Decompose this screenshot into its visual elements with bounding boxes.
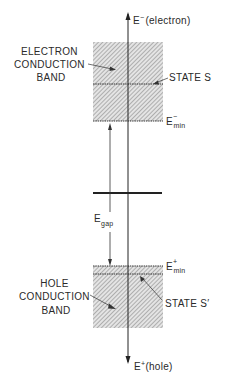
axis-top-label: E−(electron) xyxy=(133,14,191,26)
hole-band-label: HOLE CONDUCTION BAND xyxy=(19,278,93,316)
e-gap-label: Egap xyxy=(94,213,114,228)
gap-arrow-down-icon xyxy=(108,259,112,266)
state-s-label: STATE S xyxy=(169,72,211,83)
axis-bottom-label: E+(hole) xyxy=(134,360,173,372)
electron-band-label: ELECTRON CONDUCTION BAND xyxy=(14,46,88,83)
gap-arrow-up-icon xyxy=(108,123,112,130)
axis-down-arrow-icon xyxy=(126,356,131,364)
state-s-prime-label: STATE S′ xyxy=(165,298,209,309)
energy-band-diagram: E−(electron) ELECTRON CONDUCTION BAND ST… xyxy=(0,0,230,385)
e-min-minus-label: E−min xyxy=(166,113,186,129)
axis-up-arrow-icon xyxy=(126,12,131,20)
e-min-plus-label: E+min xyxy=(166,258,186,274)
